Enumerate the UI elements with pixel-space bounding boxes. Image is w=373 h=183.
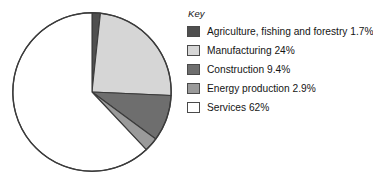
legend-swatch-icon: [187, 102, 200, 114]
legend-swatch-icon: [187, 64, 200, 76]
legend-item: Construction 9.4%: [187, 60, 373, 79]
pie-slice: [92, 13, 171, 95]
legend-item: Services 62%: [187, 98, 373, 117]
legend-item-label: Services 62%: [207, 102, 269, 114]
legend-title: Key: [188, 8, 373, 19]
pie-chart-figure: Key Agriculture, fishing and forestry 1.…: [0, 0, 373, 183]
legend-item-label: Agriculture, fishing and forestry 1.7%: [207, 26, 373, 38]
legend-swatch-icon: [187, 83, 200, 95]
legend-item: Manufacturing 24%: [187, 41, 373, 60]
pie-slice-group: [13, 13, 171, 171]
legend-item: Energy production 2.9%: [187, 79, 373, 98]
pie-chart: [6, 6, 182, 182]
legend-item: Agriculture, fishing and forestry 1.7%: [187, 22, 373, 41]
pie-chart-svg: [6, 6, 182, 182]
legend-item-label: Energy production 2.9%: [207, 83, 316, 95]
legend-swatch-icon: [187, 45, 200, 57]
legend: Key Agriculture, fishing and forestry 1.…: [187, 8, 373, 117]
legend-item-label: Construction 9.4%: [207, 64, 290, 76]
legend-swatch-icon: [187, 26, 200, 38]
legend-items: Agriculture, fishing and forestry 1.7%Ma…: [187, 22, 373, 117]
legend-item-label: Manufacturing 24%: [207, 45, 295, 57]
